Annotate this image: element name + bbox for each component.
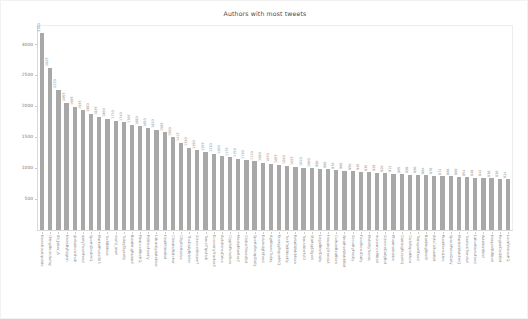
bar[interactable]	[89, 114, 93, 230]
bar-slot[interactable]: 990	[318, 26, 322, 230]
bar-slot[interactable]: 928	[375, 26, 379, 230]
bar-slot[interactable]: 1130	[244, 26, 248, 230]
bar-slot[interactable]: 1110	[252, 26, 256, 230]
bar-slot[interactable]: 920	[383, 26, 387, 230]
bar-slot[interactable]: 842	[481, 26, 485, 230]
bar[interactable]	[179, 143, 183, 230]
bar[interactable]	[489, 178, 493, 230]
bar[interactable]	[261, 163, 265, 230]
bar-slot[interactable]: 1770	[114, 26, 118, 230]
bar[interactable]	[97, 117, 101, 230]
bar-slot[interactable]: 1800	[105, 26, 109, 230]
bar[interactable]	[187, 148, 191, 230]
bar-slot[interactable]: 905	[400, 26, 404, 230]
bar[interactable]	[383, 173, 387, 230]
bar-slot[interactable]: 1740	[122, 26, 126, 230]
bar-slot[interactable]: 1415	[179, 26, 183, 230]
bar-slot[interactable]: 1330	[187, 26, 191, 230]
bar[interactable]	[56, 90, 60, 230]
bar[interactable]	[73, 107, 77, 230]
bar[interactable]	[359, 172, 363, 230]
bar-slot[interactable]: 1230	[212, 26, 216, 230]
bar[interactable]	[432, 176, 436, 230]
bar-slot[interactable]: 1995	[73, 26, 77, 230]
bar-slot[interactable]: 1935	[81, 26, 85, 230]
bar[interactable]	[228, 157, 232, 230]
bar-slot[interactable]: 860	[457, 26, 461, 230]
bar[interactable]	[440, 176, 444, 230]
bar[interactable]	[146, 128, 150, 230]
bar-slot[interactable]: 898	[408, 26, 412, 230]
bar[interactable]	[195, 150, 199, 230]
bar-slot[interactable]: 1175	[228, 26, 232, 230]
bar[interactable]	[342, 171, 346, 230]
bar-slot[interactable]: 1070	[269, 26, 273, 230]
bar-slot[interactable]: 848	[473, 26, 477, 230]
bar[interactable]	[457, 177, 461, 230]
bar-slot[interactable]: 1255	[203, 26, 207, 230]
bar[interactable]	[285, 166, 289, 230]
bar[interactable]	[252, 161, 256, 230]
bar[interactable]	[498, 179, 502, 230]
bar[interactable]	[473, 178, 477, 230]
bar-slot[interactable]: 935	[367, 26, 371, 230]
bar-slot[interactable]: 1835	[97, 26, 101, 230]
bar[interactable]	[114, 121, 118, 230]
bar-slot[interactable]: 1010	[301, 26, 305, 230]
bar-slot[interactable]: 890	[416, 26, 420, 230]
bar[interactable]	[105, 119, 109, 230]
bar-slot[interactable]: 970	[334, 26, 338, 230]
bar[interactable]	[375, 173, 379, 230]
bar-slot[interactable]: 1025	[293, 26, 297, 230]
bar[interactable]	[481, 178, 485, 230]
bar[interactable]	[326, 169, 330, 230]
bar[interactable]	[391, 174, 395, 230]
bar[interactable]	[122, 122, 126, 230]
bar-slot[interactable]: 912	[391, 26, 395, 230]
bar[interactable]	[293, 167, 297, 230]
bar[interactable]	[203, 152, 207, 230]
bar[interactable]	[465, 177, 469, 230]
bar[interactable]	[138, 126, 142, 230]
bar-slot[interactable]: 866	[449, 26, 453, 230]
bar[interactable]	[236, 159, 240, 230]
bar[interactable]	[163, 132, 167, 230]
bar-slot[interactable]: 1055	[277, 26, 281, 230]
bar-slot[interactable]: 1150	[236, 26, 240, 230]
bar-slot[interactable]: 3180	[40, 26, 44, 230]
bar[interactable]	[154, 130, 158, 230]
bar-slot[interactable]: 980	[326, 26, 330, 230]
bar[interactable]	[424, 175, 428, 230]
bar[interactable]	[449, 176, 453, 230]
bar[interactable]	[212, 154, 216, 230]
bar[interactable]	[367, 172, 371, 230]
bar-slot[interactable]: 1880	[89, 26, 93, 230]
bar-slot[interactable]: 1290	[195, 26, 199, 230]
bar[interactable]	[40, 33, 44, 230]
bar-slot[interactable]: 1090	[261, 26, 265, 230]
bar-slot[interactable]: 2055	[64, 26, 68, 230]
bar-slot[interactable]: 960	[342, 26, 346, 230]
bar[interactable]	[310, 168, 314, 230]
bar-slot[interactable]: 1500	[171, 26, 175, 230]
bar-slot[interactable]: 1620	[154, 26, 158, 230]
bar[interactable]	[269, 164, 273, 230]
bar-slot[interactable]: 836	[489, 26, 493, 230]
bar-slot[interactable]: 950	[351, 26, 355, 230]
bar-slot[interactable]: 1705	[130, 26, 134, 230]
bar[interactable]	[244, 160, 248, 230]
bar[interactable]	[301, 168, 305, 230]
bar[interactable]	[506, 179, 510, 230]
bar-slot[interactable]: 1650	[146, 26, 150, 230]
bar-slot[interactable]: 878	[432, 26, 436, 230]
bar[interactable]	[220, 156, 224, 230]
bar-slot[interactable]: 2270	[56, 26, 60, 230]
bar[interactable]	[351, 171, 355, 230]
bar[interactable]	[171, 137, 175, 230]
bar-slot[interactable]: 1200	[220, 26, 224, 230]
bar-slot[interactable]: 2625	[48, 26, 52, 230]
bar-slot[interactable]: 824	[506, 26, 510, 230]
bar-slot[interactable]: 854	[465, 26, 469, 230]
bar[interactable]	[130, 125, 134, 230]
bar-slot[interactable]: 1000	[310, 26, 314, 230]
